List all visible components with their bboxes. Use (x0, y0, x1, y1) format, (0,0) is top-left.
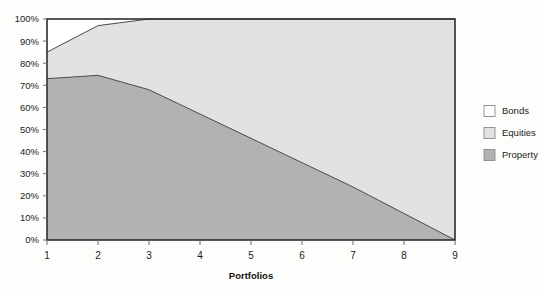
legend-label-bonds: Bonds (502, 105, 529, 116)
y-tick-label: 40% (20, 146, 40, 157)
x-tick-label: 3 (146, 250, 152, 261)
stacked-area-chart: 0%10%20%30%40%50%60%70%80%90%100% 123456… (0, 0, 543, 291)
legend-swatch-equities[interactable] (484, 128, 495, 139)
scan-speck (377, 225, 379, 227)
legend-label-equities: Equities (502, 127, 536, 138)
x-tick-label: 8 (401, 250, 407, 261)
scan-speck (165, 130, 167, 132)
y-tick-label: 60% (20, 102, 40, 113)
y-tick-label: 30% (20, 168, 40, 179)
legend: BondsEquitiesProperty (484, 105, 538, 160)
x-tick-label: 4 (197, 250, 203, 261)
chart-figure: 0%10%20%30%40%50%60%70%80%90%100% 123456… (0, 0, 543, 291)
x-axis-ticks: 123456789 (44, 240, 458, 261)
x-tick-label: 9 (452, 250, 458, 261)
x-tick-label: 1 (44, 250, 50, 261)
y-tick-label: 10% (20, 212, 40, 223)
y-tick-label: 20% (20, 190, 40, 201)
y-tick-label: 70% (20, 80, 40, 91)
y-axis-ticks: 0%10%20%30%40%50%60%70%80%90%100% (15, 13, 47, 245)
x-tick-label: 2 (95, 250, 101, 261)
legend-swatch-bonds[interactable] (484, 106, 495, 117)
series-areas (47, 19, 455, 240)
x-tick-label: 7 (350, 250, 356, 261)
x-tick-label: 5 (248, 250, 254, 261)
y-tick-label: 80% (20, 58, 40, 69)
legend-swatch-property[interactable] (484, 150, 495, 161)
y-tick-label: 100% (15, 13, 40, 24)
x-axis-title: Portfolios (229, 270, 273, 281)
y-tick-label: 0% (25, 234, 39, 245)
y-tick-label: 50% (20, 124, 40, 135)
y-tick-label: 90% (20, 36, 40, 47)
legend-label-property: Property (502, 149, 538, 160)
x-tick-label: 6 (299, 250, 305, 261)
